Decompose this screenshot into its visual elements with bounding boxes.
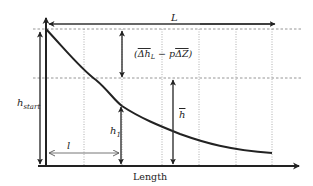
label-L: L [170, 12, 178, 23]
label-h1: h1 [110, 125, 121, 139]
label-delta-expression: (ΔhL − pΔZ) [134, 48, 193, 61]
label-l: l [67, 140, 70, 151]
label-h-start: hstart [17, 97, 40, 111]
water-profile-diagram: L hstart (ΔhL − pΔZ) h1 l h Length [0, 0, 313, 186]
x-axis-label: Length [133, 171, 167, 182]
label-h-mean: h [179, 109, 185, 120]
